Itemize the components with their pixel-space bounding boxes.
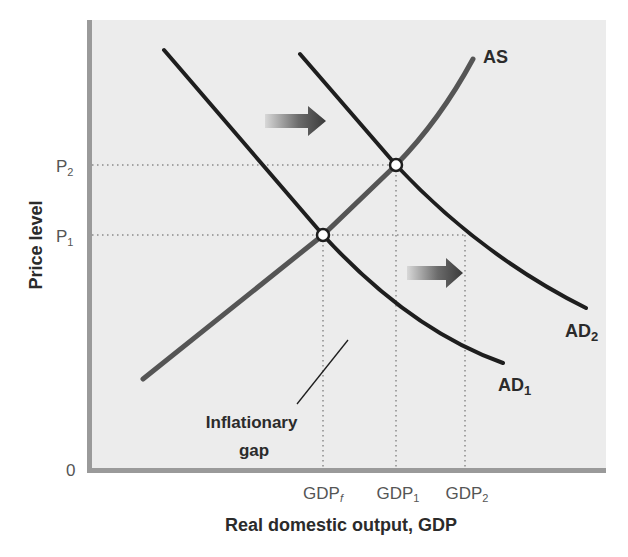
y-tick-p2: P2 bbox=[56, 157, 73, 178]
x-tick-gdpf: GDPf bbox=[303, 484, 344, 504]
plot-area bbox=[88, 20, 606, 470]
ad-as-inflationary-gap-diagram: AS AD1 AD2 Inflationary gap P2 P1 0 GDPf… bbox=[0, 0, 628, 557]
x-tick-gdp1: GDP1 bbox=[377, 484, 420, 504]
inflationary-gap-line2: gap bbox=[239, 441, 269, 460]
y-tick-p1: P1 bbox=[56, 227, 73, 248]
equilibrium-point-initial bbox=[317, 229, 329, 241]
x-axis-title: Real domestic output, GDP bbox=[225, 515, 457, 535]
equilibrium-point-new bbox=[390, 159, 402, 171]
as-label: AS bbox=[483, 47, 508, 67]
inflationary-gap-line1: Inflationary bbox=[206, 413, 298, 432]
x-tick-gdp2: GDP2 bbox=[446, 484, 489, 504]
origin-label: 0 bbox=[66, 461, 75, 480]
y-axis-title: Price level bbox=[26, 200, 46, 289]
